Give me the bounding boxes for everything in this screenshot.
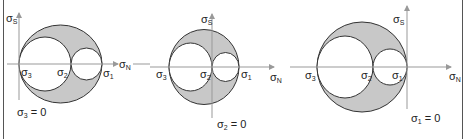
condition-label: σ3 = 0 (17, 107, 46, 119)
point-label-sigma3: σ3 (21, 67, 32, 79)
point-label-sigma2: σ2 (200, 69, 211, 81)
axis-label-normal: σN (270, 72, 282, 84)
axis-label-normal: σN (119, 59, 131, 71)
point-label-sigma3: σ3 (305, 70, 316, 82)
axis-label-shear: σS (393, 14, 404, 26)
point-label-sigma1: σ1 (103, 68, 114, 80)
point-label-sigma3: σ3 (156, 69, 167, 81)
axis-label-normal: σN (449, 71, 461, 83)
panel-sigma3-zero (7, 13, 150, 103)
axis-label-shear: σS (6, 13, 17, 25)
condition-label: σ1 = 0 (411, 113, 440, 125)
panel-sigma2-zero (150, 14, 274, 118)
axis-label-shear: σS (201, 14, 212, 26)
point-label-sigma1: σ1 (392, 70, 403, 82)
point-label-sigma2: σ2 (361, 70, 372, 82)
point-label-sigma1: σ1 (241, 69, 252, 81)
panel-sigma1-zero (290, 6, 451, 112)
condition-label: σ2 = 0 (217, 119, 246, 131)
point-label-sigma2: σ2 (57, 67, 68, 79)
